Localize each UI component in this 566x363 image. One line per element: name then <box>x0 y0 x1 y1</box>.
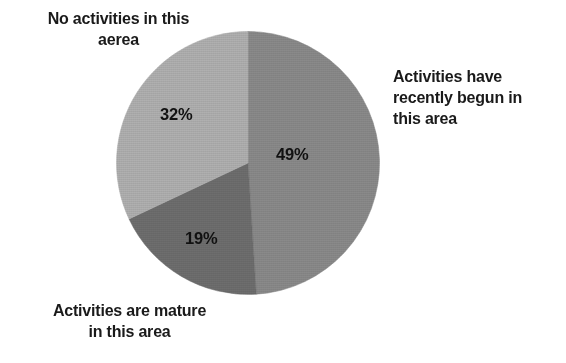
pie-chart-figure: 49% 19% 32% No activities in this aerea … <box>0 0 566 363</box>
slice-value-mature: 19% <box>185 229 217 248</box>
slice-label-recently-begun-line3: this area <box>393 108 522 129</box>
slice-label-mature: Activities are mature in this area <box>22 300 237 342</box>
slice-label-mature-line2: in this area <box>22 321 237 342</box>
pie-slice-group <box>117 32 380 295</box>
pie-chart-graphic <box>116 31 380 295</box>
slice-label-recently-begun-line2: recently begun in <box>393 87 522 108</box>
slice-label-no-activities-line1: No activities in this <box>16 8 221 29</box>
pie-svg <box>116 31 380 295</box>
pie-slice <box>248 32 379 295</box>
slice-label-mature-line1: Activities are mature <box>22 300 237 321</box>
slice-label-recently-begun: Activities have recently begun in this a… <box>393 66 522 129</box>
slice-label-no-activities-line2: aerea <box>16 29 221 50</box>
slice-value-recent: 49% <box>276 145 308 164</box>
slice-value-none: 32% <box>160 105 192 124</box>
slice-label-recently-begun-line1: Activities have <box>393 66 522 87</box>
slice-label-no-activities: No activities in this aerea <box>16 8 221 50</box>
